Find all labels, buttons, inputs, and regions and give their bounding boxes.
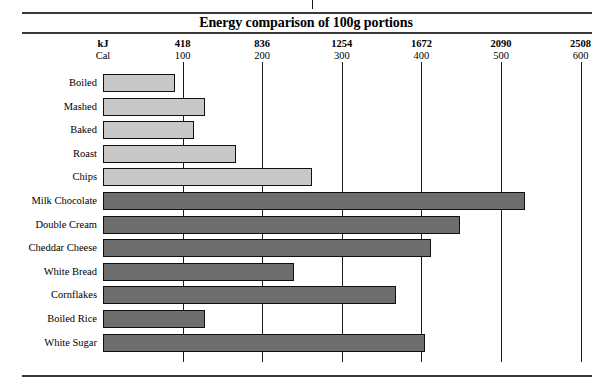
axis-tick-kj: 2090: [471, 38, 531, 50]
page-margin-tick: [312, 0, 313, 9]
category-label: Boiled Rice: [0, 313, 97, 325]
axis-tick-cal: 600: [551, 50, 611, 62]
gridline: [421, 62, 422, 362]
bar-roast: [103, 145, 236, 163]
footer-rule: [22, 375, 592, 377]
gridline: [342, 62, 343, 362]
axis-tick-group-200: 836200: [232, 38, 292, 62]
bar-mashed: [103, 98, 205, 116]
axis-tick-cal: 500: [471, 50, 531, 62]
axis-tick-kj: 2508: [551, 38, 611, 50]
bar-double-cream: [103, 216, 460, 234]
axis-tick-group-600: 2508600: [551, 38, 611, 62]
axis-tick-kj: 1672: [391, 38, 451, 50]
category-label: Chips: [0, 171, 97, 183]
bar-milk-chocolate: [103, 192, 525, 210]
category-label: Roast: [0, 148, 97, 160]
axis-tick-kj: 418: [153, 38, 213, 50]
bar-baked: [103, 121, 194, 139]
axis-tick-cal: 400: [391, 50, 451, 62]
axis-tick-kj: 1254: [312, 38, 372, 50]
category-label: White Bread: [0, 266, 97, 278]
category-label: Milk Chocolate: [0, 195, 97, 207]
category-label: Double Cream: [0, 219, 97, 231]
bar-white-sugar: [103, 334, 425, 352]
bar-boiled: [103, 74, 175, 92]
axis-tick-group-100: 418100: [153, 38, 213, 62]
category-label: Baked: [0, 124, 97, 136]
gridline: [581, 62, 582, 362]
bar-cheddar-cheese: [103, 239, 431, 257]
category-label: Cheddar Cheese: [0, 242, 97, 254]
axis-tick-cal: 200: [232, 50, 292, 62]
bar-chips: [103, 168, 312, 186]
title-rule-bottom: [22, 32, 592, 34]
category-label-column: BoiledMashedBakedRoastChipsMilk Chocolat…: [0, 0, 99, 390]
axis-tick-cal: 100: [153, 50, 213, 62]
axis-tick-kj: 836: [232, 38, 292, 50]
axis-tick-group-500: 2090500: [471, 38, 531, 62]
axis-tick-group-400: 1672400: [391, 38, 451, 62]
bar-white-bread: [103, 263, 294, 281]
plot-area: [103, 68, 592, 362]
gridline: [262, 62, 263, 362]
bar-boiled-rice: [103, 310, 205, 328]
category-label: White Sugar: [0, 337, 97, 349]
category-label: Mashed: [0, 101, 97, 113]
axis-tick-group-300: 1254300: [312, 38, 372, 62]
category-label: Cornflakes: [0, 289, 97, 301]
bar-cornflakes: [103, 286, 396, 304]
gridline: [501, 62, 502, 362]
energy-comparison-chart: Energy comparison of 100g portions kJ Ca…: [0, 0, 612, 390]
category-label: Boiled: [0, 77, 97, 89]
axis-tick-cal: 300: [312, 50, 372, 62]
